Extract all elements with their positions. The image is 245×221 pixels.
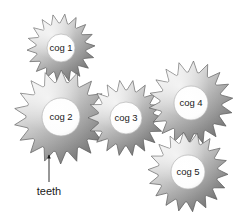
cog-3: cog 3 [88, 81, 164, 156]
teeth-callout: teeth [37, 155, 61, 197]
cog-4: cog 4 [149, 61, 232, 145]
cog-2-label: cog 2 [49, 111, 72, 122]
cog-3-label: cog 3 [114, 112, 137, 123]
gear-diagram: cog 1cog 2cog 3cog 4cog 5 teeth [0, 0, 245, 221]
cog-5-label: cog 5 [176, 166, 199, 177]
cog-5: cog 5 [148, 132, 228, 211]
gear-diagram-canvas: cog 1cog 2cog 3cog 4cog 5 teeth [0, 0, 245, 221]
cog-4-label: cog 4 [179, 97, 202, 108]
cogs-layer: cog 1cog 2cog 3cog 4cog 5 [15, 14, 233, 212]
cog-1-label: cog 1 [49, 42, 72, 53]
teeth-callout-label: teeth [37, 185, 61, 197]
